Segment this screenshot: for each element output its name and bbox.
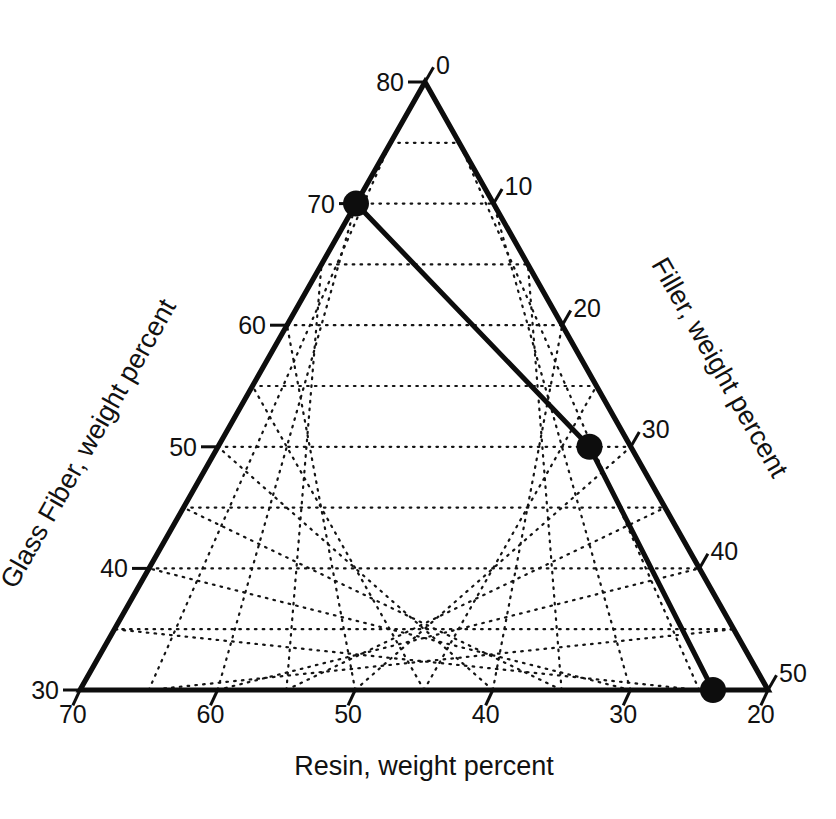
tick-label-left-axis: 80 bbox=[376, 68, 404, 96]
tick-label-bottom-axis: 60 bbox=[197, 700, 225, 728]
tick-label-right-axis: 40 bbox=[710, 537, 738, 565]
tick-label-left-axis: 30 bbox=[31, 676, 59, 704]
tick-label-bottom-axis: 70 bbox=[59, 700, 87, 728]
tick-label-right-axis: 30 bbox=[642, 415, 670, 443]
data-point-marker[interactable] bbox=[577, 434, 603, 460]
data-point-marker[interactable] bbox=[700, 677, 726, 703]
tick-label-left-axis: 70 bbox=[307, 190, 335, 218]
tick-label-bottom-axis: 40 bbox=[472, 700, 500, 728]
tick-label-right-axis: 0 bbox=[436, 51, 450, 79]
ternary-plot-canvas: 80706050403001020304050706050403020 Glas… bbox=[0, 0, 836, 819]
tick-label-right-axis: 10 bbox=[505, 172, 533, 200]
tick-label-left-axis: 40 bbox=[100, 554, 128, 582]
tick-label-right-axis: 50 bbox=[779, 659, 807, 687]
tick-label-bottom-axis: 20 bbox=[747, 700, 775, 728]
tick-label-bottom-axis: 30 bbox=[609, 700, 637, 728]
tick-label-left-axis: 50 bbox=[169, 433, 197, 461]
tick-label-right-axis: 20 bbox=[573, 294, 601, 322]
data-point-marker[interactable] bbox=[343, 191, 369, 217]
bottom-axis-title: Resin, weight percent bbox=[294, 751, 554, 781]
tick-label-bottom-axis: 50 bbox=[334, 700, 362, 728]
ternary-diagram-figure: 80706050403001020304050706050403020 Glas… bbox=[0, 0, 836, 819]
tick-label-left-axis: 60 bbox=[238, 311, 266, 339]
